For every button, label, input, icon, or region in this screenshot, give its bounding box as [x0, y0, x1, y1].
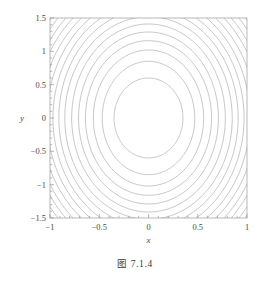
y-tick-label: −1.5: [31, 214, 46, 223]
y-tick-label: 0: [42, 114, 46, 123]
contour-plot-figure: −1−0.500.51 −1.5−1−0.500.511.5 x y: [0, 0, 270, 248]
y-axis-title: y: [19, 113, 24, 123]
figure-root: −1−0.500.51 −1.5−1−0.500.511.5 x y 图 7.1…: [0, 0, 270, 285]
x-axis-title: x: [146, 235, 151, 245]
y-tick-label: −0.5: [31, 147, 46, 156]
x-tick-label: −1: [46, 223, 55, 232]
y-tick-label: 1.5: [36, 14, 46, 23]
contour-plot-svg: −1−0.500.51 −1.5−1−0.500.511.5 x y: [0, 0, 270, 248]
x-tick-label: 1: [245, 223, 249, 232]
y-tick-label: −1: [37, 181, 46, 190]
figure-caption: 图 7.1.4: [0, 256, 270, 270]
x-tick-label: 0: [146, 223, 150, 232]
y-tick-label: 1: [42, 47, 46, 56]
y-tick-label: 0.5: [36, 81, 46, 90]
x-tick-label: −0.5: [92, 223, 107, 232]
x-tick-label: 0.5: [193, 223, 203, 232]
